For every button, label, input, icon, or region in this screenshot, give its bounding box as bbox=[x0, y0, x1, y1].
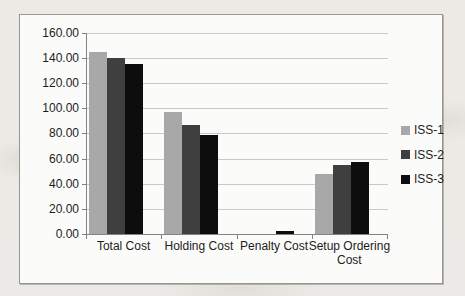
y-axis-tick-label: 160.00 bbox=[20, 25, 79, 41]
bar-iss-3-setup-ordering-cost bbox=[351, 162, 369, 234]
bar-iss-2-total-cost bbox=[107, 58, 125, 234]
y-axis-line bbox=[86, 33, 87, 234]
bar-iss-1-total-cost bbox=[89, 52, 107, 234]
legend-item: ISS-3 bbox=[401, 171, 444, 187]
legend-series-label: ISS-3 bbox=[414, 172, 444, 186]
y-axis-tick-label: 60.00 bbox=[20, 151, 79, 167]
scanned-page-background: 0.0020.0040.0060.0080.00100.00120.00140.… bbox=[0, 0, 465, 296]
y-axis-tick-label: 40.00 bbox=[20, 176, 79, 192]
legend-series-label: ISS-1 bbox=[414, 123, 444, 137]
legend-color-swatch bbox=[401, 175, 410, 184]
legend-item: ISS-2 bbox=[401, 147, 444, 163]
bar-iss-3-penalty-cost bbox=[276, 231, 294, 234]
bar-iss-3-holding-cost bbox=[200, 135, 218, 234]
legend-color-swatch bbox=[401, 150, 410, 159]
legend-series-label: ISS-2 bbox=[414, 148, 444, 162]
bar-iss-2-setup-ordering-cost bbox=[333, 165, 351, 234]
legend-item: ISS-1 bbox=[401, 122, 444, 138]
bar-iss-3-total-cost bbox=[125, 64, 143, 234]
y-axis-tick-label: 20.00 bbox=[20, 201, 79, 217]
bar-iss-1-setup-ordering-cost bbox=[315, 174, 333, 234]
legend-color-swatch bbox=[401, 126, 410, 135]
bar-iss-1-holding-cost bbox=[164, 112, 182, 234]
gridline bbox=[87, 33, 388, 34]
chart-frame: 0.0020.0040.0060.0080.00100.00120.00140.… bbox=[19, 14, 443, 284]
y-axis-tick-label: 140.00 bbox=[20, 50, 79, 66]
y-axis-tick-label: 80.00 bbox=[20, 125, 79, 141]
y-axis-tick-label: 0.00 bbox=[20, 226, 79, 242]
bar-iss-2-holding-cost bbox=[182, 125, 200, 234]
gridline bbox=[87, 58, 388, 59]
y-axis-tick-label: 100.00 bbox=[20, 100, 79, 116]
y-axis-tick-label: 120.00 bbox=[20, 75, 79, 91]
category-label: Setup Ordering Cost bbox=[303, 239, 395, 267]
